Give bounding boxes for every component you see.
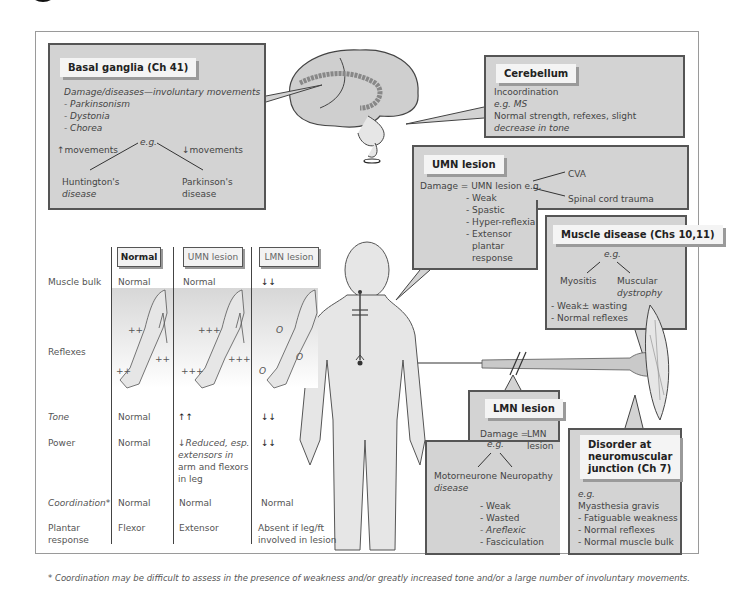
cell-tone-normal: Normal	[118, 411, 151, 423]
nmj-title: Disorder at neuromuscular junction (Ch 7…	[580, 435, 680, 479]
column-header-normal: Normal	[117, 247, 161, 267]
cell-power-lmn: ↓↓	[261, 437, 276, 449]
column-header-lmn: LMN lesion	[259, 247, 319, 267]
row-label-power: Power	[48, 437, 75, 449]
reflex-mark-normal: ++	[128, 324, 143, 336]
column-header-umn: UMN lesion	[183, 247, 243, 267]
cell-power-umn: ↓Reduced, esp.	[178, 437, 249, 449]
reflex-mark-lmn: O	[296, 351, 303, 363]
cell-tone-umn: ↑↑	[178, 411, 193, 423]
nmj-line: - Normal reflexes	[578, 524, 655, 536]
cell-power-umn-2: extensors in	[178, 449, 233, 461]
column-divider	[251, 247, 252, 544]
cell-tone-lmn: ↓↓	[261, 411, 276, 423]
cell-muscle-bulk-umn: Normal	[183, 276, 216, 288]
cell-coordination-umn: Normal	[179, 497, 212, 509]
row-label-muscle-bulk: Muscle bulk	[48, 276, 101, 288]
row-label-plantar-2: response	[48, 534, 89, 546]
row-label-coordination: Coordination*	[48, 497, 110, 509]
reflex-mark-umn: +++	[228, 353, 251, 365]
row-label-reflexes: Reflexes	[48, 346, 86, 358]
reflex-mark-lmn: O	[259, 365, 266, 377]
cell-plantar-lmn: Absent if leg/ft	[258, 522, 324, 534]
cell-coordination-normal: Normal	[118, 497, 151, 509]
footnote: * Coordination may be difficult to asses…	[48, 573, 690, 583]
column-divider	[173, 247, 174, 544]
reflex-mark-normal: ++	[155, 353, 170, 365]
nmj-line: - Fatiguable weakness	[578, 512, 678, 524]
arm-illustration-umn	[180, 288, 250, 398]
nmj-eg: e.g.	[578, 488, 595, 500]
arm-illustration-normal	[115, 288, 173, 398]
reflex-mark-umn: +++	[198, 324, 221, 336]
cell-power-umn-4: in leg	[178, 473, 203, 485]
column-divider	[111, 247, 112, 544]
nmj-line: - Normal muscle bulk	[578, 536, 674, 548]
cell-muscle-bulk-lmn: ↓↓	[261, 276, 276, 288]
cell-plantar-lmn-2: involved in lesion	[258, 534, 336, 546]
row-label-tone: Tone	[48, 411, 69, 423]
arm-illustration-lmn	[255, 288, 320, 398]
reflex-mark-normal: ++	[116, 365, 131, 377]
cell-power-umn-3: arm and flexors	[178, 461, 248, 473]
reflex-mark-lmn: O	[276, 324, 283, 336]
nmj-title-3: junction (Ch 7)	[588, 463, 672, 475]
nmj-title-2: neuromuscular	[588, 451, 672, 463]
nmj-line: Myasthesia gravis	[578, 500, 659, 512]
cell-power-normal: Normal	[118, 437, 151, 449]
cell-plantar-normal: Flexor	[118, 522, 145, 534]
cell-plantar-umn: Extensor	[179, 522, 219, 534]
reflex-mark-umn: +++	[181, 365, 204, 377]
nmj-title-1: Disorder at	[588, 439, 672, 451]
cell-coordination-lmn: Normal	[261, 497, 294, 509]
cell-muscle-bulk-normal: Normal	[118, 276, 151, 288]
row-label-plantar: Plantar	[48, 522, 80, 534]
